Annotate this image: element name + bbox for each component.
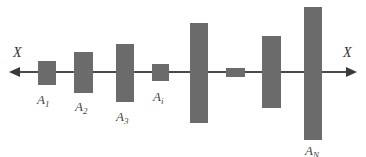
diagram-canvas: X X A1A2A3AiAN	[0, 0, 366, 157]
axis-label-left: X	[13, 46, 22, 60]
arrow-right-icon	[346, 67, 357, 77]
block-label-main: A	[75, 99, 83, 114]
block-label-subscript: N	[313, 150, 319, 157]
block-a2	[74, 52, 93, 93]
block-b7	[262, 36, 281, 108]
block-label-an: AN	[305, 144, 319, 157]
block-an	[304, 7, 322, 140]
block-label-subscript: 3	[124, 116, 129, 126]
block-label-subscript: 1	[45, 99, 50, 109]
block-label-main: A	[37, 92, 45, 107]
block-label-subscript: 2	[83, 106, 88, 116]
block-a3	[116, 44, 134, 102]
axis-label-right: X	[343, 46, 352, 60]
x-axis-line	[16, 71, 350, 73]
block-ai	[152, 64, 169, 81]
block-label-main: A	[153, 89, 161, 104]
block-label-a1: A1	[37, 93, 49, 109]
block-label-subscript: i	[161, 96, 164, 106]
block-label-ai: Ai	[153, 90, 163, 106]
block-label-main: A	[116, 109, 124, 124]
block-a1	[38, 61, 56, 85]
block-label-a3: A3	[116, 110, 128, 126]
arrow-left-icon	[9, 67, 20, 77]
block-b6	[226, 68, 245, 77]
block-label-main: A	[305, 143, 313, 157]
block-label-a2: A2	[75, 100, 87, 116]
block-b5	[190, 23, 208, 123]
